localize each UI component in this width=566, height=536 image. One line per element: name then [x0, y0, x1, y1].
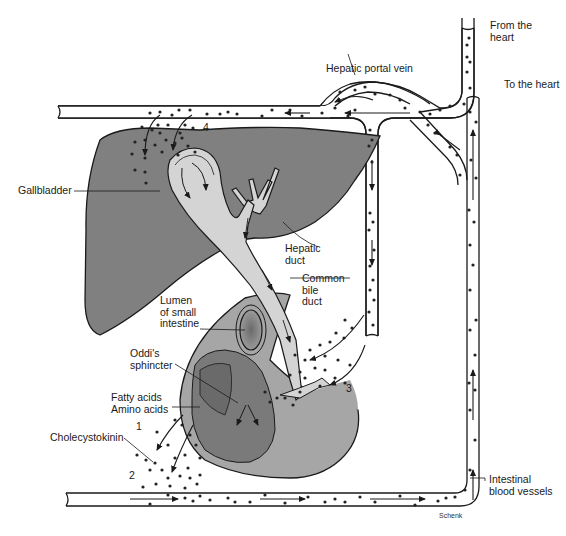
step-2: 2 [129, 469, 135, 481]
artist-credit: Schenk [439, 512, 462, 519]
step-1: 1 [136, 420, 142, 432]
bile-secretion-diagram: From the heart To the heart Hepatic port… [0, 0, 566, 536]
step-3: 3 [346, 382, 352, 394]
step-4: 4 [203, 121, 209, 133]
label-oddis-sphincter: Oddi's sphincter [130, 348, 173, 371]
label-from-heart: From the heart [490, 20, 532, 43]
label-intestinal-blood-vessels: Intestinal blood vessels [489, 474, 553, 497]
label-hepatic-portal-vein: Hepatic portal vein [326, 63, 413, 75]
label-gallbladder: Gallbladder [18, 185, 72, 197]
label-to-heart: To the heart [504, 79, 559, 91]
diagram-artwork [0, 0, 566, 536]
label-fatty-amino-acids: Fatty acids Amino acids [111, 392, 168, 415]
small-intestine [180, 293, 359, 478]
label-cholecystokinin: Cholecystokinin [50, 432, 124, 444]
label-hepatic-duct: Hepatic duct [285, 243, 321, 266]
label-lumen-small-intestine: Lumen of small intestine [160, 295, 199, 330]
label-common-bile-duct: Common bile duct [302, 273, 345, 308]
